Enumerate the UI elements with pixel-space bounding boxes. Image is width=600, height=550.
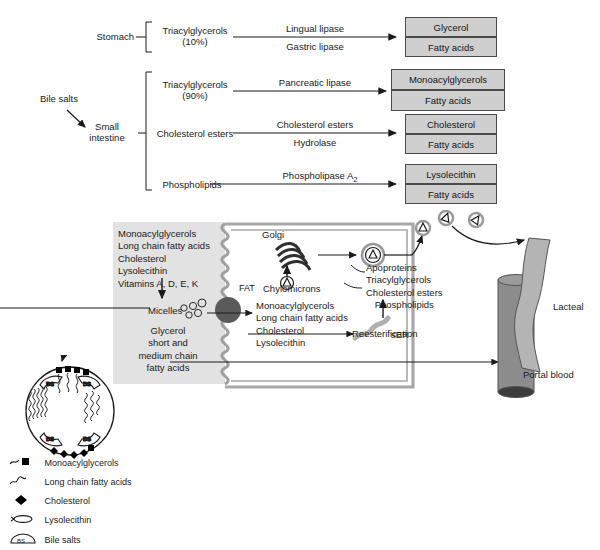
legend-label: Lysolecithin: [45, 515, 92, 525]
lumen-item: Monoacylglycerols: [118, 228, 210, 240]
product-box-cholesterol: Cholesterol: [405, 114, 497, 134]
legend-label: Bile salts: [45, 535, 81, 545]
bile-salts-label: Bile salts: [40, 93, 78, 104]
golgi-label: Golgi: [262, 229, 284, 240]
diamond-icon: [8, 494, 42, 506]
fat-label: FAT: [239, 283, 255, 294]
product-box-glycerol: Glycerol: [405, 17, 497, 37]
portal-blood-label: Portal blood: [523, 369, 574, 380]
component-item: Triacylglycerols: [366, 274, 443, 286]
enzyme-phospholipase-a2: Phospholipase A2: [250, 170, 390, 185]
enzyme-gastric-lipase: Gastric lipase: [255, 41, 375, 52]
product-box-fatty-acids-3: Fatty acids: [405, 134, 497, 154]
svg-text:BS: BS: [46, 436, 54, 442]
site-label-small-intestine-line2: intestine: [78, 132, 136, 143]
svg-text:BS: BS: [46, 381, 54, 387]
released-chylomicrons: [437, 210, 524, 244]
legend-label: Long chain fatty acids: [45, 477, 132, 487]
svg-text:BS: BS: [83, 436, 91, 442]
squiggle-icon: [8, 475, 42, 487]
lipid-digestion-figure: Stomach Small intestine Bile salts Triac…: [0, 0, 600, 550]
substrate-label: Triacylglycerols: [155, 25, 235, 36]
substrate-triacylglycerols-10: Triacylglycerols (10%): [155, 25, 235, 47]
fat-droplet: [215, 297, 241, 323]
product-box-fatty-acids-1: Fatty acids: [405, 37, 497, 57]
substrate-triacylglycerols-90: Triacylglycerols (90%): [155, 79, 235, 101]
site-label-small-intestine-line1: Small: [78, 121, 136, 132]
component-item: Cholesterol esters: [366, 287, 443, 299]
legend-item-monoacylglycerols: Monoacylglycerols: [8, 456, 119, 468]
site-label-stomach: Stomach: [56, 31, 134, 42]
substrate-label: Phospholipids: [152, 179, 232, 190]
substrate-phospholipids: Phospholipids: [152, 179, 232, 190]
lumen-small-item: Glycerol: [118, 325, 218, 337]
cell-item: Cholesterol: [256, 325, 348, 337]
bile-salt-icon: BS: [8, 532, 42, 546]
enzyme-lingual-lipase: Lingual lipase: [255, 23, 375, 34]
substrate-percent: (90%): [155, 90, 235, 101]
substrate-cholesterol-esters: Cholesterol esters: [152, 128, 238, 139]
golgi-apparatus: [276, 243, 310, 270]
lumen-item: Vitamins A, D, E, K: [118, 278, 210, 290]
lumen-small-item: short and: [118, 337, 218, 349]
lacteal-label: Lacteal: [553, 301, 584, 312]
component-item: Phospholipids: [366, 299, 443, 311]
legend-label: Cholesterol: [45, 496, 91, 506]
lumen-substrate-list: Monoacylglycerols Long chain fatty acids…: [118, 228, 210, 290]
legend-item-long-chain-fatty-acids: Long chain fatty acids: [8, 475, 132, 487]
svg-text:BS: BS: [83, 381, 91, 387]
substrate-label: Cholesterol esters: [152, 128, 238, 139]
enzyme-cholesterol-esters: Cholesterol esters: [250, 119, 380, 130]
chylomicron-component-leaders: [344, 265, 365, 288]
cell-substrate-list: Monoacylglycerols Long chain fatty acids…: [256, 300, 348, 350]
enzyme-phospholipase-a2-label: Phospholipase A: [283, 170, 354, 181]
product-box-lysolecithin: Lysolecithin: [405, 164, 497, 184]
legend-item-cholesterol: Cholesterol: [8, 494, 90, 506]
chylomicrons-label: Chylomicrons: [263, 283, 321, 294]
substrate-label: Triacylglycerols: [155, 79, 235, 90]
legend-item-lysolecithin: Lysolecithin: [8, 513, 91, 525]
product-box-fatty-acids-2: Fatty acids: [391, 90, 505, 111]
lumen-item: Long chain fatty acids: [118, 240, 210, 252]
lumen-item: Cholesterol: [118, 253, 210, 265]
legend-item-bile-salts: BS Bile salts: [8, 532, 81, 546]
site-label-small-intestine: Small intestine: [78, 121, 136, 143]
component-item: Apoproteins: [366, 262, 443, 274]
product-box-fatty-acids-4: Fatty acids: [405, 184, 497, 204]
enzyme-phospholipase-a2-subscript: 2: [353, 175, 357, 184]
lacteal-vessel: [515, 238, 550, 372]
product-box-monoacylglycerols: Monoacylglycerols: [391, 69, 505, 90]
legend-label: Monoacylglycerols: [45, 458, 119, 468]
chylomicron-components: Apoproteins Triacylglycerols Cholesterol…: [366, 262, 443, 312]
svg-text:BS: BS: [17, 538, 25, 544]
ser-label: sER: [391, 329, 409, 340]
lens-icon: [8, 513, 42, 525]
enzyme-hydrolase: Hydrolase: [250, 137, 380, 148]
substrate-percent: (10%): [155, 36, 235, 47]
cell-item: Long chain fatty acids: [256, 312, 348, 324]
cell-item: Lysolecithin: [256, 337, 348, 349]
micelles-label: Micelles: [148, 305, 182, 316]
enzyme-pancreatic-lipase: Pancreatic lipase: [250, 77, 380, 88]
squiggle-square-icon: [8, 456, 42, 468]
lumen-item: Lysolecithin: [118, 265, 210, 277]
cell-item: Monoacylglycerols: [256, 300, 348, 312]
